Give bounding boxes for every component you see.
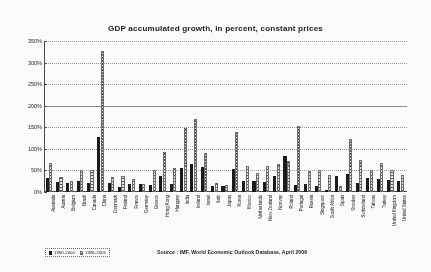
x-axis-tick-label: Netherlands [259,195,264,218]
bar-series-2 [390,170,393,192]
bar-series-2 [132,179,135,192]
y-axis-tick-label: 0% [2,189,42,195]
bar-series-2 [173,168,176,192]
bar-group [128,41,138,192]
bar-group [138,41,148,192]
bar-series-2 [184,128,187,192]
x-axis-tick-label: Brazil [83,195,88,206]
y-axis-tick-label: 250% [2,81,42,87]
bar-series-2 [370,170,373,192]
x-axis-tick-label: Portugal [300,195,305,211]
y-axis-tick-mark [44,63,47,64]
bar-series-2 [308,171,311,192]
bar-group [55,41,65,192]
bar-group [252,41,262,192]
x-axis-tick-label: Denmark [114,195,119,213]
bar-group [66,41,76,192]
x-axis-tick-label: Poland [290,195,295,209]
bar-series-2 [90,170,93,192]
bar-group [324,41,334,192]
bar-series-2 [59,177,62,192]
x-axis-tick-label: India [186,195,191,204]
bar-series-2 [235,132,238,192]
bar-group [335,41,345,192]
x-axis-tick-label: Norway [279,195,284,210]
y-axis-tick-label: 300% [2,60,42,66]
bar-series-2 [215,183,218,192]
bar-series-2 [266,166,269,192]
bar-series-2 [111,177,114,192]
bar-group [76,41,86,192]
bar-series-2 [256,173,259,192]
x-axis-tick-label: South Africa [331,195,336,218]
x-axis-tick-label: Austria [62,195,67,208]
bar-group [314,41,324,192]
x-axis-tick-label: Ireland [197,195,202,208]
bar-series-2 [80,170,83,192]
bar-series-2 [142,184,145,192]
y-axis-tick-mark [44,149,47,150]
legend-entry-series-1: 1990-2000 [49,250,75,255]
x-axis-tick-label: Canada [93,195,98,210]
bar-series-2 [194,119,197,192]
bar-series-2 [121,176,124,192]
y-axis-labels: 350%300%250%200%150%100%50%0% [0,41,42,192]
x-axis-tick-label: Greece [155,195,160,209]
x-axis-tick-label: France [135,195,140,209]
bar-series-2 [163,152,166,192]
bar-group [45,41,55,192]
bar-group [366,41,376,192]
x-axis-tick-label: Israel [207,195,212,206]
bar-series-2 [153,170,156,192]
chart-legend: 1990-2000 1996-2005 [45,248,110,257]
bar-group [221,41,231,192]
bar-group [376,41,386,192]
bar-series-2 [297,126,300,192]
bar-group [386,41,396,192]
bar-group [169,41,179,192]
legend-swatch-icon [49,251,52,255]
y-axis-tick-label: 150% [2,124,42,130]
y-axis-tick-mark [44,84,47,85]
y-axis-tick-mark [44,41,47,42]
legend-swatch-icon [80,251,83,255]
bar-series-container [45,41,407,192]
chart-figure: GDP accumulated growth, in percent, cons… [0,0,431,272]
bar-group [242,41,252,192]
legend-entry-series-2: 1996-2005 [80,250,106,255]
x-axis-tick-label: Turkey [383,195,388,208]
y-axis-tick-label: 100% [2,146,42,152]
bar-group [262,41,272,192]
bar-series-2 [349,139,352,192]
bar-series-2 [401,175,404,192]
x-axis-tick-label: Sweden [352,195,357,211]
bar-group [200,41,210,192]
x-axis-tick-label: Japan [228,195,233,207]
y-axis-tick-mark [44,127,47,128]
x-axis-tick-label: Italy [217,195,222,203]
source-note: Source : IMF, World Economic Outlook Dat… [157,249,307,255]
bar-series-2 [246,166,249,192]
x-axis-tick-label: Switzerland [362,195,367,217]
x-axis-tick-label: United States [403,195,408,221]
y-axis-tick-label: 350% [2,38,42,44]
bar-group [304,41,314,192]
bar-series-2 [101,51,104,192]
bar-group [107,41,117,192]
y-axis-tick-mark [44,106,47,107]
legend-label-series-1: 1990-2000 [54,250,75,255]
x-axis-tick-label: Germany [145,195,150,213]
bar-group [190,41,200,192]
bar-group [283,41,293,192]
bar-group [231,41,241,192]
bar-series-2 [318,170,321,192]
legend-label-series-2: 1996-2005 [85,250,106,255]
x-axis-tick-label: Russia [310,195,315,208]
x-axis-tick-label: Spain [341,195,346,206]
bar-series-2 [339,186,342,192]
x-axis-tick-label: Hungary [176,195,181,211]
bar-series-2 [328,175,331,192]
x-axis-tick-label: China [103,195,108,206]
bar-series-2 [225,185,228,192]
x-axis-tick-label: Hong Kong [166,195,171,217]
